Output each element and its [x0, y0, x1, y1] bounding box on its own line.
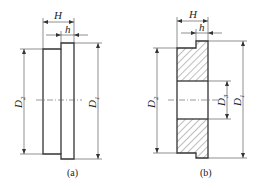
- label-D1-b: D: [231, 98, 243, 107]
- label-D2-b: D: [145, 100, 157, 109]
- label-D1-a: D: [86, 100, 98, 109]
- figure-a: H h D 2 D 1 (a): [12, 9, 102, 179]
- label-D3-b: D: [215, 98, 227, 107]
- label-H-a: H: [53, 9, 63, 21]
- label-D2-a: D: [12, 100, 24, 109]
- svg-text:1: 1: [93, 97, 101, 101]
- technical-drawing: H h D 2 D 1 (a): [0, 0, 258, 188]
- figure-b: H h D 2 D 3 D 1 (b): [145, 8, 247, 179]
- flange-outline-a: [43, 43, 74, 159]
- label-h-a: h: [65, 23, 71, 35]
- label-H-b: H: [188, 8, 198, 20]
- svg-text:2: 2: [152, 96, 160, 100]
- svg-text:3: 3: [222, 94, 230, 99]
- caption-a: (a): [67, 167, 78, 179]
- caption-b: (b): [200, 167, 212, 179]
- label-h-b: h: [199, 21, 205, 33]
- svg-text:1: 1: [238, 95, 246, 99]
- svg-text:2: 2: [19, 96, 27, 100]
